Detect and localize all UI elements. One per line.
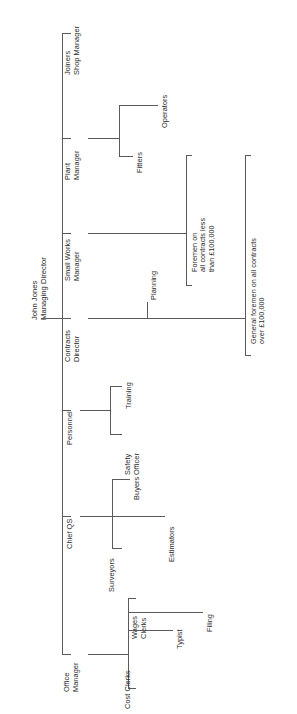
connector-plant-children-bracket bbox=[119, 105, 120, 156]
joiners-line2: Shop Manager bbox=[73, 26, 82, 75]
connector-branch-contracts-director bbox=[62, 318, 71, 319]
connector-branch-buyers bbox=[112, 479, 130, 480]
connector-branch-typist bbox=[128, 630, 173, 631]
node-training: Training bbox=[125, 382, 134, 409]
plant-manager-line1: Plant bbox=[63, 163, 72, 180]
node-safety-officer: Safety Officer bbox=[124, 453, 141, 475]
cost-clerks-label: Cost Clerks bbox=[123, 670, 132, 709]
connector-branch-chief-qs bbox=[62, 516, 71, 517]
connector-root-stem bbox=[41, 318, 62, 319]
fitters-label: Fitters bbox=[135, 152, 144, 173]
operators-label: Operators bbox=[160, 95, 169, 128]
node-contracts-director: Contracts Director bbox=[64, 330, 81, 362]
small-works-line2: Manager bbox=[73, 239, 82, 281]
connector-chief-qs-run bbox=[80, 516, 165, 517]
connector-general-foremen-cap-bottom bbox=[245, 355, 251, 356]
node-general-foremen: General foremen on all contracts over £1… bbox=[250, 238, 267, 344]
node-fitters: Fitters bbox=[136, 152, 145, 173]
root-name: John Jones bbox=[30, 281, 39, 320]
connector-general-foremen-cap-top bbox=[245, 155, 251, 156]
planning-label: Planning bbox=[149, 271, 158, 300]
node-surveyors: Surveyors bbox=[108, 558, 117, 592]
estimators-label: Estimators bbox=[167, 527, 176, 562]
node-foremen-small-contracts: Foremen on all contracts less than £100,… bbox=[191, 218, 216, 272]
node-small-works-manager: Small Works Manager bbox=[64, 239, 81, 281]
connector-branch-plant-manager bbox=[62, 138, 71, 139]
general-foremen-line2: over £100,000 bbox=[258, 238, 266, 344]
training-label: Training bbox=[124, 382, 133, 409]
connector-branch-planning bbox=[147, 302, 148, 319]
connector-foremen-small-bracket bbox=[186, 155, 187, 285]
connector-branch-operators bbox=[119, 105, 158, 106]
wages-clerks-line1: Wages bbox=[130, 616, 139, 639]
plant-manager-line2: Manager bbox=[73, 150, 82, 180]
contracts-director-line2: Director bbox=[73, 330, 82, 362]
node-filing: Filing bbox=[206, 614, 215, 632]
connector-branch-fitters bbox=[119, 156, 133, 157]
connector-branch-small-works bbox=[62, 233, 71, 234]
connector-branch-safety-officer bbox=[110, 434, 122, 435]
node-typist: Typist bbox=[176, 629, 185, 649]
buyers-label: Buyers bbox=[132, 477, 141, 500]
connector-personnel-stem bbox=[80, 410, 110, 411]
office-manager-line1: Office bbox=[62, 673, 71, 692]
joiners-line1: Joiners bbox=[63, 51, 72, 75]
connector-branch-surveyors bbox=[112, 548, 122, 549]
node-planning: Planning bbox=[150, 271, 159, 300]
connector-small-works-run bbox=[88, 233, 186, 234]
node-personnel: Personnel bbox=[66, 411, 75, 445]
connector-branch-training bbox=[110, 386, 122, 387]
connector-chief-qs-children-bracket bbox=[112, 479, 113, 548]
connector-personnel-children-bracket bbox=[110, 386, 111, 434]
node-plant-manager: Plant Manager bbox=[64, 150, 81, 180]
office-manager-line2: Manager bbox=[72, 662, 81, 692]
personnel-label: Personnel bbox=[65, 411, 74, 445]
node-cost-clerks: Cost Clerks bbox=[124, 670, 133, 709]
typist-label: Typist bbox=[175, 629, 184, 649]
safety-officer-line2: Officer bbox=[133, 453, 142, 475]
surveyors-label: Surveyors bbox=[107, 558, 116, 592]
connector-contracts-run bbox=[88, 318, 245, 319]
node-root-managing-director: John Jones Managing Director bbox=[31, 257, 48, 320]
node-operators: Operators bbox=[161, 95, 170, 128]
organisation-chart: John Jones Managing Director Joiners Sho… bbox=[0, 0, 297, 714]
small-works-line1: Small Works bbox=[63, 239, 72, 281]
filing-label: Filing bbox=[205, 614, 214, 632]
foremen-small-line3: than £100,000 bbox=[208, 218, 216, 272]
connector-foremen-small-cap-top bbox=[186, 155, 192, 156]
node-estimators: Estimators bbox=[168, 527, 177, 562]
contracts-director-line1: Contracts bbox=[63, 330, 72, 362]
connector-branch-office-manager bbox=[62, 654, 71, 655]
connector-branch-filing bbox=[128, 612, 203, 613]
node-buyers: Buyers bbox=[133, 477, 142, 500]
connector-general-foremen-bracket bbox=[245, 155, 246, 355]
node-wages-clerks: Wages Clerks bbox=[131, 616, 148, 639]
chief-qs-label: Chief QS bbox=[65, 519, 74, 549]
root-title: Managing Director bbox=[40, 257, 49, 320]
safety-officer-line1: Safety bbox=[123, 454, 132, 475]
connector-plant-stem bbox=[88, 138, 119, 139]
node-joiners-shop-manager: Joiners Shop Manager bbox=[64, 26, 81, 75]
connector-foremen-small-cap-bottom bbox=[186, 285, 192, 286]
node-chief-qs: Chief QS bbox=[66, 519, 75, 549]
node-office-manager: Office Manager bbox=[63, 662, 80, 692]
connector-branch-wages-clerks bbox=[128, 598, 136, 599]
connector-office-manager-stem bbox=[88, 654, 128, 655]
wages-clerks-line2: Clerks bbox=[140, 616, 149, 639]
